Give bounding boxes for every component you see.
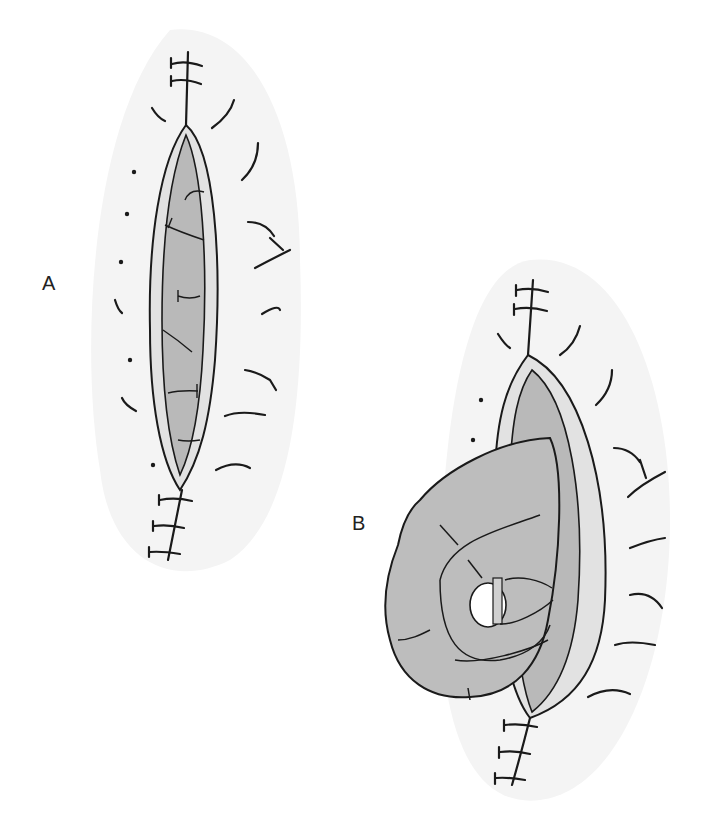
panel-a (91, 29, 301, 571)
surgical-illustration (0, 0, 708, 839)
panel-b (385, 259, 670, 800)
bowel-loop-b (385, 438, 559, 697)
